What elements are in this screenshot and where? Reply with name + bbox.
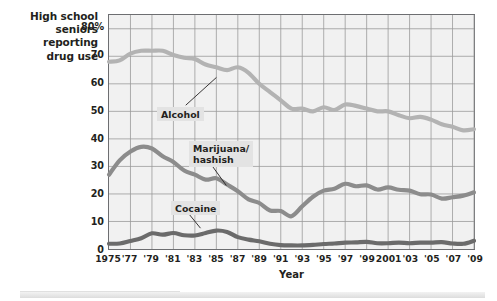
alcohol-series-label: Alcohol — [157, 107, 204, 121]
x-axis-tick-label: '91 — [273, 253, 289, 264]
x-axis-tick-label: '81 — [165, 253, 181, 264]
x-axis-tick-label: '83 — [187, 253, 203, 264]
x-axis-title: Year — [108, 269, 475, 280]
y-axis-tick-label: 40 — [60, 133, 104, 144]
x-axis-tick-labels: 1975'77'79'81'83'85'87'89'91'93'95'97'99… — [108, 253, 475, 267]
x-axis-tick-label: '89 — [251, 253, 267, 264]
y-axis-tick-label: 30 — [60, 160, 104, 171]
y-axis-tick-label: 80% — [60, 21, 104, 32]
x-axis-tick-label: 1975 — [95, 253, 121, 264]
x-axis-tick-label: '79 — [143, 253, 159, 264]
x-axis-tick-label: '99 — [359, 253, 375, 264]
y-axis-tick-label: 50 — [60, 105, 104, 116]
leader-line — [186, 77, 217, 105]
y-axis-tick-label: 60 — [60, 77, 104, 88]
annotation-leader-lines — [109, 15, 474, 249]
leader-line — [213, 167, 227, 186]
figure-drug-use-line-chart: High school seniors reporting drug use 8… — [0, 0, 497, 301]
y-axis-tick-label: 10 — [60, 216, 104, 227]
x-axis-tick-label: '97 — [338, 253, 354, 264]
plot-area: AlcoholMarijuana/ hashishCocaine — [108, 14, 475, 250]
footer-strip — [20, 292, 485, 298]
y-axis-tick-label: 70 — [60, 49, 104, 60]
x-axis-tick-label: '05 — [424, 253, 440, 264]
x-axis-tick-label: '93 — [294, 253, 310, 264]
y-axis-tick-label: 20 — [60, 188, 104, 199]
x-axis-tick-label: '77 — [122, 253, 138, 264]
x-axis-tick-label: '87 — [230, 253, 246, 264]
leader-line — [189, 214, 200, 228]
y-axis-tick-labels: 80%706050403020100 — [56, 14, 104, 250]
x-axis-tick-label: '95 — [316, 253, 332, 264]
cocaine-series-label: Cocaine — [171, 201, 220, 215]
marijuana-series-label: Marijuana/ hashish — [189, 141, 253, 167]
x-axis-tick-label: '03 — [402, 253, 418, 264]
x-axis-tick-label: '07 — [446, 253, 462, 264]
x-axis-tick-label: '85 — [208, 253, 224, 264]
x-axis-tick-label: 2001 — [376, 253, 402, 264]
x-axis-tick-label: '09 — [467, 253, 483, 264]
